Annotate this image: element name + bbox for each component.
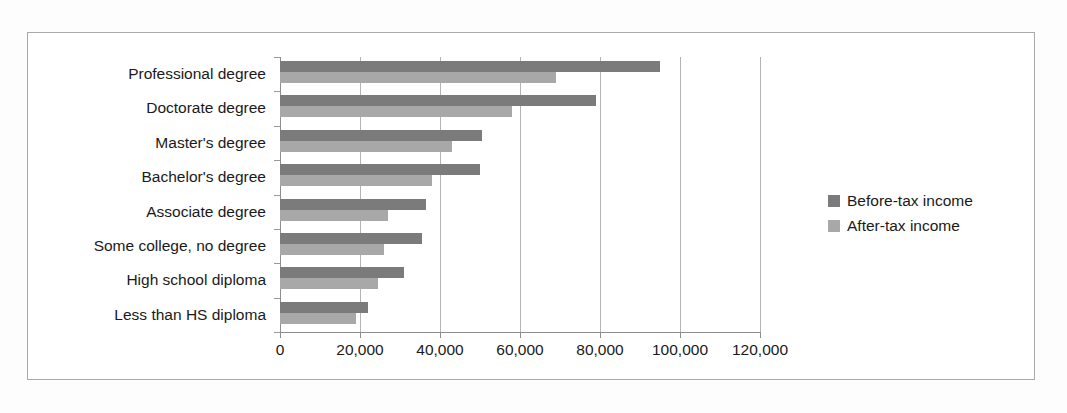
x-axis-label: 20,000 — [336, 341, 383, 359]
bar-before-tax — [280, 95, 596, 106]
gridline-120000 — [760, 57, 761, 332]
legend-label: After-tax income — [847, 217, 960, 235]
category-label: Less than HS diploma — [40, 298, 272, 332]
bar-group — [280, 195, 760, 229]
bar-group — [280, 298, 760, 332]
bar-group — [280, 160, 760, 194]
bar-after-tax — [280, 313, 356, 324]
category-label: Bachelor's degree — [40, 160, 272, 194]
bar-before-tax — [280, 302, 368, 313]
bar-before-tax — [280, 61, 660, 72]
bar-group — [280, 229, 760, 263]
category-label: Some college, no degree — [40, 229, 272, 263]
category-label: High school diploma — [40, 263, 272, 297]
bar-group — [280, 263, 760, 297]
x-axis-tick — [440, 332, 441, 338]
bar-group — [280, 91, 760, 125]
bar-group — [280, 57, 760, 91]
bar-before-tax — [280, 199, 426, 210]
bar-after-tax — [280, 278, 378, 289]
bar-before-tax — [280, 164, 480, 175]
bar-after-tax — [280, 106, 512, 117]
legend-item: Before-tax income — [828, 188, 1018, 213]
x-axis-label: 60,000 — [496, 341, 543, 359]
x-axis-tick — [760, 332, 761, 338]
legend-swatch-icon — [828, 195, 840, 207]
category-label: Master's degree — [40, 126, 272, 160]
bar-before-tax — [280, 267, 404, 278]
category-label: Associate degree — [40, 195, 272, 229]
legend-item: After-tax income — [828, 213, 1018, 238]
bar-group — [280, 126, 760, 160]
bar-rows — [280, 57, 760, 332]
x-axis-label: 100,000 — [652, 341, 708, 359]
category-label: Doctorate degree — [40, 91, 272, 125]
bar-after-tax — [280, 141, 452, 152]
bar-after-tax — [280, 210, 388, 221]
category-label: Professional degree — [40, 57, 272, 91]
x-axis-label: 0 — [276, 341, 285, 359]
bar-after-tax — [280, 244, 384, 255]
legend-label: Before-tax income — [847, 192, 973, 210]
bar-after-tax — [280, 175, 432, 186]
x-axis-tick — [280, 332, 281, 338]
x-axis-label: 120,000 — [732, 341, 788, 359]
x-axis-tick — [680, 332, 681, 338]
plot-area — [280, 57, 760, 332]
bar-before-tax — [280, 130, 482, 141]
chart-figure: Professional degreeDoctorate degreeMaste… — [0, 0, 1067, 413]
x-axis-tick — [520, 332, 521, 338]
x-axis-label: 40,000 — [416, 341, 463, 359]
x-axis-label: 80,000 — [576, 341, 623, 359]
bar-before-tax — [280, 233, 422, 244]
chart-legend: Before-tax incomeAfter-tax income — [828, 188, 1018, 238]
x-axis-tick — [360, 332, 361, 338]
legend-swatch-icon — [828, 220, 840, 232]
category-axis-labels: Professional degreeDoctorate degreeMaste… — [40, 57, 272, 332]
x-axis-tick — [600, 332, 601, 338]
bar-after-tax — [280, 72, 556, 83]
